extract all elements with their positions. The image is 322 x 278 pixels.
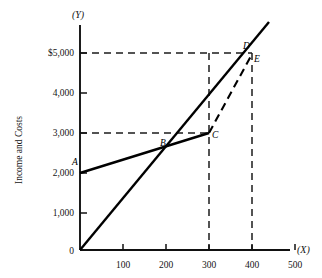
y-tick-label-0: 0 xyxy=(69,246,74,256)
chart-figure: (Y) (X) Income and Costs $5,000 4,000 3,… xyxy=(0,0,322,278)
series-cost-line xyxy=(80,133,209,173)
point-label-d: D xyxy=(242,41,250,51)
y-tick-label-2000: 2,000 xyxy=(53,168,75,178)
y-tick-label-1000: 1,000 xyxy=(53,208,75,218)
x-tick-label-200: 200 xyxy=(159,260,174,270)
y-tick-label-4000: 4,000 xyxy=(53,88,75,98)
point-label-a: A xyxy=(71,157,78,167)
y-tick-label-5000: $5,000 xyxy=(48,48,74,58)
x-tick-label-400: 400 xyxy=(245,260,260,270)
x-tick-label-300: 300 xyxy=(202,260,217,270)
point-label-e: E xyxy=(253,54,260,64)
x-axis-title: (X) xyxy=(297,244,310,256)
x-tick-labels: 100 200 300 400 500 xyxy=(116,260,303,270)
point-label-b: B xyxy=(160,138,166,148)
x-tick-label-100: 100 xyxy=(116,260,131,270)
y-tick-labels: $5,000 4,000 3,000 2,000 1,000 0 xyxy=(48,48,74,256)
data-series-group xyxy=(80,22,269,250)
x-tick-label-500: 500 xyxy=(288,260,303,270)
y-tick-marks xyxy=(80,53,87,213)
y-axis-label: Income and Costs xyxy=(14,116,24,184)
point-label-c: C xyxy=(212,130,219,140)
series-income-line xyxy=(80,22,269,250)
y-axis-title: (Y) xyxy=(72,9,85,21)
chart-canvas: (Y) (X) Income and Costs $5,000 4,000 3,… xyxy=(0,0,322,278)
y-tick-label-3000: 3,000 xyxy=(53,128,75,138)
